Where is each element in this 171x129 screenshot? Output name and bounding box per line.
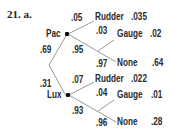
- node-label-pac: Pac: [46, 29, 61, 39]
- joint-pac-gauge: .02: [150, 29, 161, 39]
- node-dot-lux: [66, 93, 70, 97]
- edge-lux-gauge: [98, 100, 114, 111]
- prob-pac-not-rudder: .95: [72, 45, 83, 55]
- prob-lux-none: .96: [96, 118, 107, 128]
- outcome-pac-none: None: [117, 58, 138, 68]
- outcome-pac-gauge: Gauge: [117, 29, 143, 39]
- joint-lux-none: .28: [151, 117, 162, 127]
- joint-pac-rudder: .035: [131, 12, 147, 22]
- prob-pac-none: .97: [96, 59, 107, 69]
- prob-lux-rudder: .07: [72, 75, 83, 85]
- prob-lux: .31: [40, 79, 51, 89]
- edge-root-pac: [49, 36, 66, 65]
- problem-label: 21. a.: [7, 9, 32, 20]
- outcome-lux-gauge: Gauge: [117, 90, 143, 100]
- outcome-lux-rudder: Rudder: [95, 74, 124, 84]
- joint-pac-none: .64: [152, 58, 163, 68]
- prob-lux-gauge: .04: [96, 88, 107, 98]
- outcome-pac-rudder: Rudder: [95, 12, 124, 22]
- probability-tree-diagram: 21. a. .69 Pac .05 Rudder .035 .95 .03 G…: [0, 0, 171, 129]
- node-dot-pac: [65, 32, 69, 36]
- outcome-lux-none: None: [117, 117, 138, 127]
- joint-lux-gauge: .01: [151, 90, 162, 100]
- prob-pac-rudder: .05: [71, 13, 82, 23]
- edge-pac-gauge: [98, 40, 114, 51]
- prob-pac-gauge: .03: [96, 26, 107, 36]
- prob-lux-not-rudder: .93: [72, 106, 83, 116]
- prob-pac: .69: [40, 45, 51, 55]
- node-label-lux: Lux: [47, 90, 62, 100]
- joint-lux-rudder: .022: [131, 74, 147, 84]
